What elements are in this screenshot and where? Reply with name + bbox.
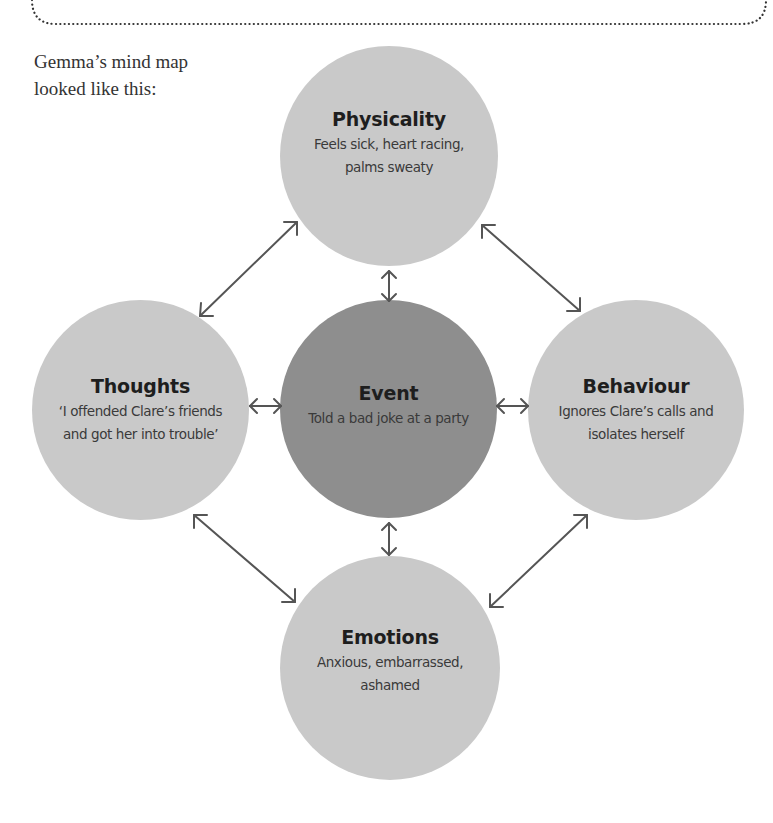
double-arrow-icon (482, 225, 580, 311)
double-arrow-icon (194, 515, 295, 602)
double-arrow-icon (497, 399, 528, 413)
mind-map-page: Gemma’s mind map looked like this: Physi… (0, 0, 773, 823)
connection-arrows (0, 0, 773, 823)
double-arrow-icon (490, 515, 587, 607)
double-arrow-icon (382, 523, 396, 555)
double-arrow-icon (250, 399, 281, 413)
double-arrow-icon (200, 222, 297, 316)
double-arrow-icon (382, 271, 396, 301)
